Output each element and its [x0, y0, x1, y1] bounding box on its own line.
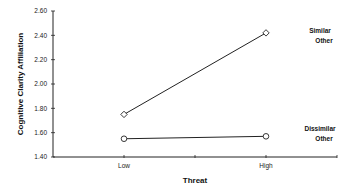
y-tick-label: 2.00	[34, 80, 47, 87]
y-tick-label: 1.40	[34, 153, 47, 160]
y-axis-title: Cognitive Clarity Affiliation	[16, 33, 25, 135]
series-label: Other	[315, 37, 333, 44]
x-axis-title: Threat	[183, 176, 208, 185]
line-chart: 2.602.402.202.001.801.601.40 LowHigh Thr…	[0, 0, 355, 195]
y-tick-label: 1.80	[34, 105, 47, 112]
series-label: Dissimilar	[304, 125, 336, 132]
diamond-marker	[263, 30, 269, 36]
series-line	[124, 136, 266, 138]
series-label: Similar	[309, 27, 331, 34]
series-line	[124, 33, 266, 115]
circle-marker	[263, 134, 269, 140]
series-labels: SimilarOtherDissimilarOther	[304, 27, 336, 142]
x-tick-label: Low	[118, 162, 130, 169]
y-axis-ticks: 2.602.402.202.001.801.601.40	[34, 7, 55, 160]
y-tick-label: 2.60	[34, 7, 47, 14]
x-tick-label: High	[259, 162, 273, 170]
series-label: Other	[315, 135, 333, 142]
y-tick-label: 2.40	[34, 32, 47, 39]
data-series	[121, 30, 269, 142]
circle-marker	[121, 136, 127, 142]
y-tick-label: 2.20	[34, 56, 47, 63]
y-tick-label: 1.60	[34, 129, 47, 136]
diamond-marker	[121, 111, 127, 117]
